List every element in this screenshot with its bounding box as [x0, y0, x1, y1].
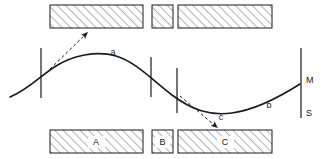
bottom-block-c-label: C: [222, 137, 229, 147]
annotation-arrows-group: [46, 33, 217, 128]
top-block-3-rect: [178, 5, 272, 28]
tick-lines-group: [41, 48, 301, 118]
label-a: a: [110, 47, 115, 57]
label-b: b: [266, 100, 271, 110]
arrow-top-left: [46, 33, 87, 73]
label-s: S: [306, 108, 312, 118]
top-block-1: [50, 5, 143, 28]
bottom-block-b-label: B: [159, 137, 165, 147]
curve-labels-group: a b c M S: [110, 47, 313, 122]
bottom-block-a-label: A: [93, 137, 99, 147]
label-m: M: [306, 75, 314, 85]
diagram-canvas: A B C: [0, 0, 329, 159]
arrow-c: [180, 96, 217, 127]
top-block-3: [178, 5, 272, 28]
bottom-block-b: B: [152, 130, 173, 153]
top-block-2-rect: [152, 5, 173, 28]
label-c: c: [219, 112, 224, 122]
top-blocks-group: [50, 5, 272, 28]
bottom-block-a: A: [50, 130, 143, 153]
web-path: [10, 54, 300, 114]
diagram-svg: A B C: [0, 0, 329, 159]
bottom-blocks-group: A B C: [50, 130, 272, 153]
top-block-1-rect: [50, 5, 143, 28]
top-block-2: [152, 5, 173, 28]
bottom-block-c: C: [178, 130, 272, 153]
